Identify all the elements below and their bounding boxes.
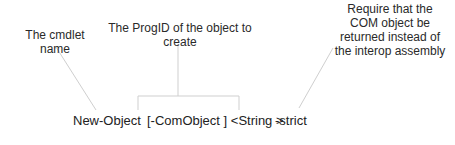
strict-annotation-line2: COM object be [330, 16, 450, 30]
syntax-cmdlet: New-Object [73, 113, 141, 128]
progid-annotation-line2: create [120, 35, 240, 49]
cmdlet-annotation-text: The cmdlet name [25, 28, 84, 56]
syntax-strict-switch: -strict [275, 113, 307, 128]
strict-pointer-line [299, 48, 333, 108]
progid-annotation-line1: The ProgID of the object to [90, 21, 270, 35]
strict-annotation-line1: Require that the [330, 2, 450, 16]
strict-annotation-line3: returned instead of [330, 30, 450, 44]
progid-bracket [138, 96, 239, 110]
syntax-comobject-param: [-ComObject ] <String > [147, 113, 284, 128]
cmdlet-pointer-line [56, 47, 96, 110]
strict-annotation: Require that the COM object be returned … [330, 2, 450, 58]
strict-annotation-line4: the interop assembly [330, 44, 450, 58]
cmdlet-annotation: The cmdlet name [10, 28, 100, 56]
progid-annotation: The ProgID of the object to create [120, 21, 240, 49]
